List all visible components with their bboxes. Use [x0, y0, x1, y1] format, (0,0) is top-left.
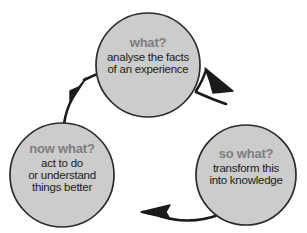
cycle-diagram: [0, 0, 307, 233]
node-circle-so-what[interactable]: [196, 125, 296, 225]
node-circle-now-what[interactable]: [10, 123, 114, 227]
diagram-canvas: what? analyse the facts of an experience…: [0, 0, 307, 233]
node-circle-what[interactable]: [96, 13, 200, 117]
arrow-shaft-what-to-so-what: [196, 92, 226, 104]
arrow-what-to-so-what: [196, 68, 233, 104]
arrow-now-what-to-what: [64, 72, 103, 124]
arrow-head-what-to-so-what: [205, 68, 233, 93]
arrow-head-now-what-to-what: [70, 78, 86, 103]
